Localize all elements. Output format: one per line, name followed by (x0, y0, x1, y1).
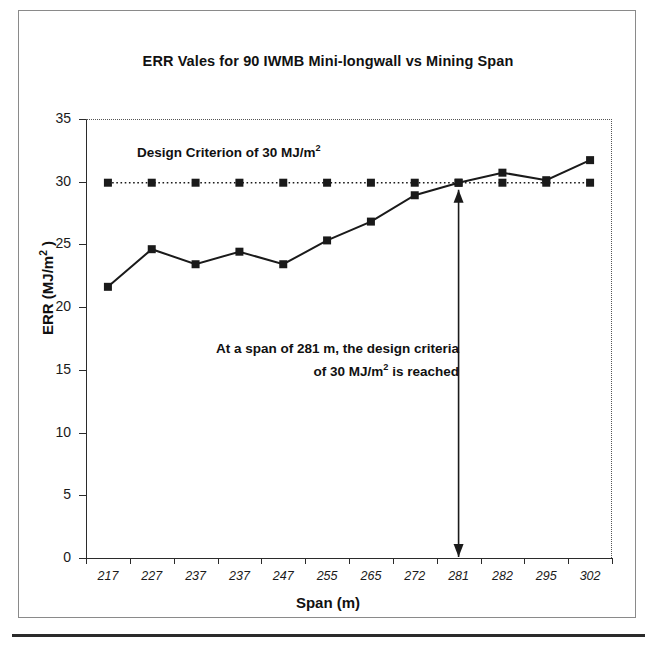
x-axis-tick-label: 255 (305, 569, 349, 583)
bottom-horizontal-rule (12, 634, 645, 637)
err-data-marker (104, 283, 112, 291)
y-axis-tick-label: 0 (19, 549, 71, 565)
figure-frame: ERR Vales for 90 IWMB Mini-longwall vs M… (18, 10, 636, 618)
x-axis-tick-label: 272 (393, 569, 437, 583)
x-axis-tick (612, 558, 613, 564)
y-axis-tick-label: 20 (19, 298, 71, 314)
x-axis-tick-label: 227 (130, 569, 174, 583)
design-criterion-marker (104, 179, 112, 187)
design-criterion-marker (367, 179, 375, 187)
x-axis-tick-label: 265 (349, 569, 393, 583)
design-criterion-text: Design Criterion of 30 MJ/m (137, 145, 316, 160)
x-axis-tick-label: 282 (481, 569, 525, 583)
err-data-marker (367, 218, 375, 226)
design-criterion-marker (235, 179, 243, 187)
arrow-head-up (454, 190, 464, 203)
err-data-marker (235, 248, 243, 256)
y-axis-tick-label: 30 (19, 173, 71, 189)
x-axis-tick-label: 237 (218, 569, 262, 583)
span-reached-line2-a: of 30 MJ/m (314, 363, 384, 378)
design-criterion-marker (323, 179, 331, 187)
x-axis-tick-label: 217 (86, 569, 130, 583)
err-data-line (108, 160, 590, 287)
x-axis-tick-label: 247 (261, 569, 305, 583)
span-reached-line2: of 30 MJ/m2 is reached (139, 360, 459, 382)
design-criterion-marker (192, 179, 200, 187)
span-reached-annotation: At a span of 281 m, the design criteria … (139, 339, 459, 382)
x-axis-tick-label: 295 (524, 569, 568, 583)
design-criterion-annotation: Design Criterion of 30 MJ/m2 (137, 143, 321, 160)
y-axis-tick-label: 15 (19, 361, 71, 377)
x-axis-tick-label: 281 (437, 569, 481, 583)
span-reached-line2-b: is reached (388, 363, 459, 378)
err-data-marker (586, 156, 594, 164)
y-axis-tick (79, 119, 86, 120)
y-axis-tick-label: 10 (19, 424, 71, 440)
x-axis-title: Span (m) (19, 594, 637, 611)
span-reached-line1: At a span of 281 m, the design criteria (139, 339, 459, 360)
design-criterion-marker (542, 179, 550, 187)
design-criterion-marker (586, 179, 594, 187)
design-criterion-superscript: 2 (316, 143, 321, 153)
x-axis-tick-label: 237 (174, 569, 218, 583)
y-axis-tick-label: 35 (19, 110, 71, 126)
y-axis-tick (79, 433, 86, 434)
design-criterion-marker (279, 179, 287, 187)
err-data-marker (192, 260, 200, 268)
y-axis-title-text: ERR (MJ/m (39, 256, 56, 335)
err-data-marker (279, 260, 287, 268)
y-axis-tick (79, 244, 86, 245)
err-data-marker (148, 245, 156, 253)
y-axis-tick (79, 558, 86, 559)
x-axis-tick-label: 302 (568, 569, 612, 583)
y-axis-tick-label: 5 (19, 486, 71, 502)
y-axis-tick-label: 25 (19, 235, 71, 251)
y-axis-tick (79, 307, 86, 308)
err-data-marker (323, 236, 331, 244)
design-criterion-marker (148, 179, 156, 187)
design-criterion-marker (498, 179, 506, 187)
y-axis-tick (79, 370, 86, 371)
design-criterion-marker (411, 179, 419, 187)
chart-title: ERR Vales for 90 IWMB Mini-longwall vs M… (19, 53, 637, 69)
err-data-marker (498, 169, 506, 177)
err-data-marker (411, 191, 419, 199)
arrow-head-down (454, 544, 464, 557)
y-axis-tick (79, 182, 86, 183)
y-axis-tick (79, 495, 86, 496)
design-criterion-marker (455, 179, 463, 187)
